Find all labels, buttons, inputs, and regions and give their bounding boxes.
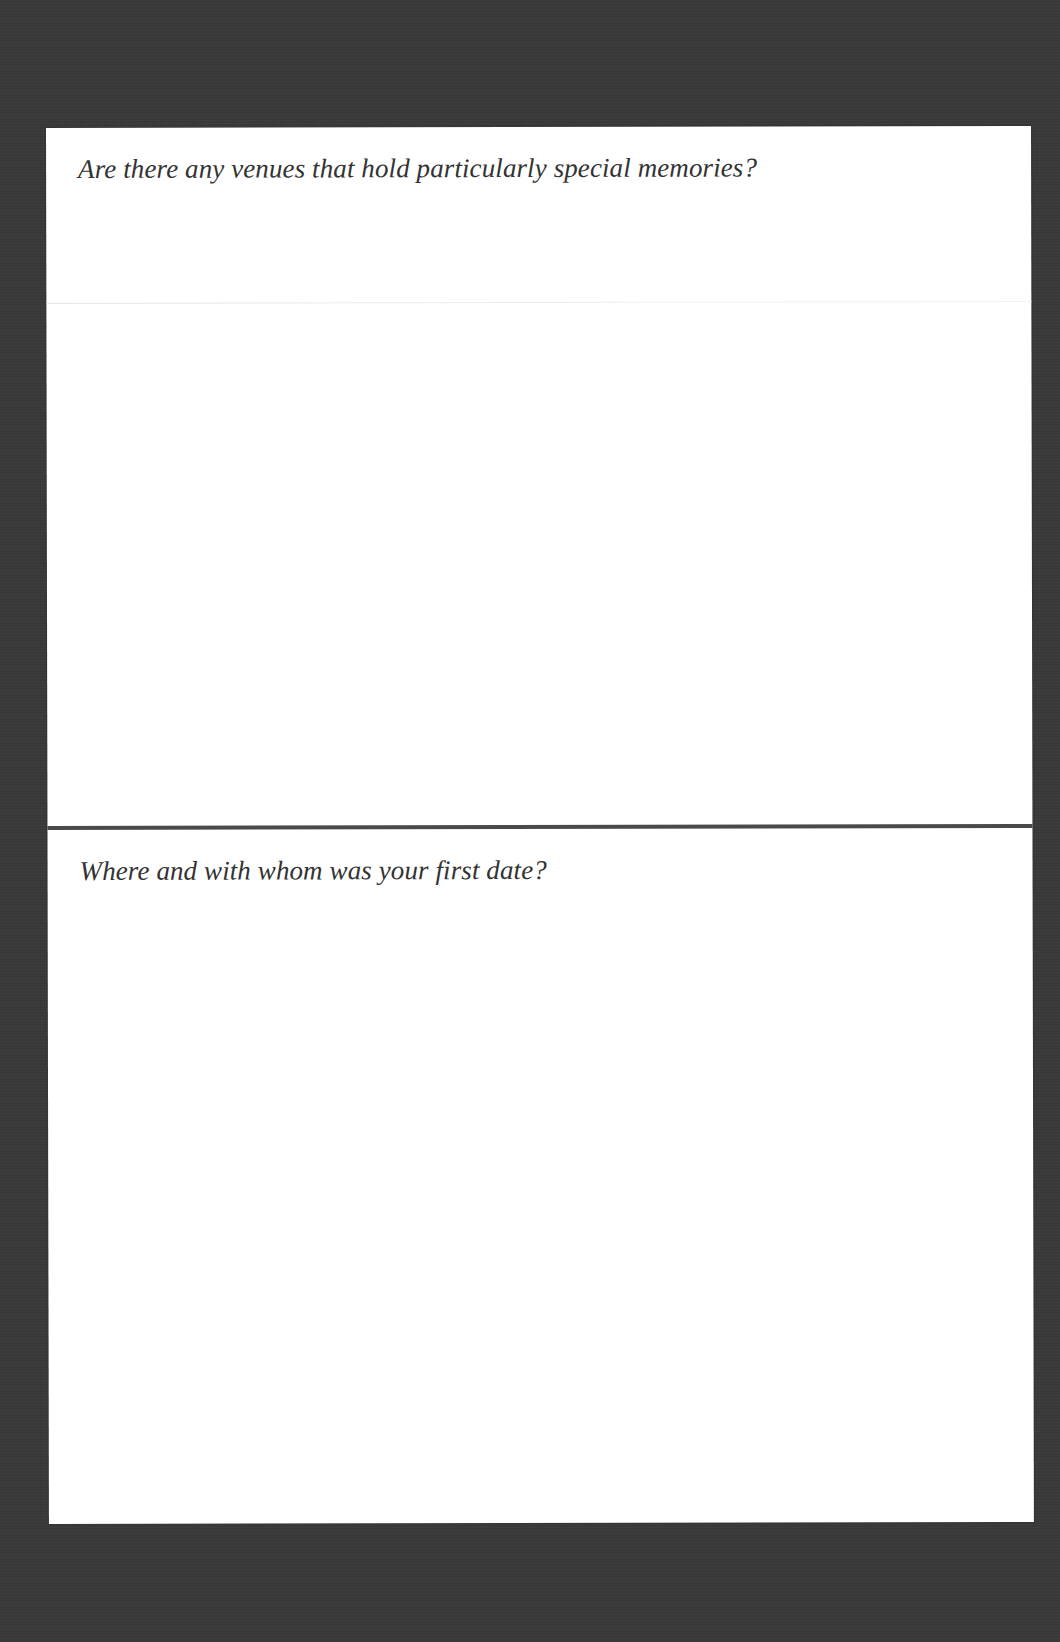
answer-writing-area[interactable] xyxy=(46,196,1032,826)
prompt-section-first-date: Where and with whom was your first date? xyxy=(47,828,1033,1524)
prompt-section-venues: Are there any venues that hold particula… xyxy=(46,126,1032,826)
prompt-question: Are there any venues that hold particula… xyxy=(78,153,757,185)
journal-page: Are there any venues that hold particula… xyxy=(46,126,1034,1524)
answer-writing-area[interactable] xyxy=(48,898,1034,1524)
prompt-question: Where and with whom was your first date? xyxy=(80,855,547,887)
